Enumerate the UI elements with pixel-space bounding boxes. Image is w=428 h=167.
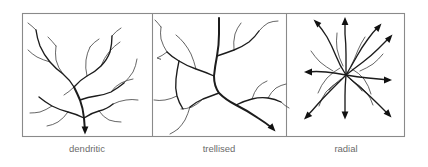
caption-trellised: trellised <box>203 143 236 154</box>
caption-dendritic: dendritic <box>69 143 105 154</box>
captions-group: dendritic trellised radial <box>69 143 358 154</box>
caption-radial: radial <box>334 143 357 154</box>
drainage-patterns-figure: dendritic trellised radial <box>0 0 428 167</box>
